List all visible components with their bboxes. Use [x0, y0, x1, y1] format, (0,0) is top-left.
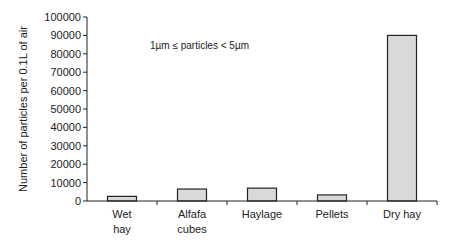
y-tick-label: 20000 [50, 158, 81, 170]
y-tick-label: 30000 [50, 140, 81, 152]
y-tick-label: 60000 [50, 85, 81, 97]
x-category-label: cubes [177, 223, 207, 235]
y-tick-label: 0 [75, 195, 81, 207]
y-tick-label: 100000 [44, 11, 81, 23]
y-tick-label: 10000 [50, 177, 81, 189]
bar-wet-hay [108, 196, 137, 201]
x-category-label: Haylage [242, 208, 282, 220]
x-category-label: Wet [112, 208, 131, 220]
x-category-label: Alfafa [178, 208, 207, 220]
y-tick-label: 40000 [50, 121, 81, 133]
y-axis-ticks: 0100002000030000400005000060000700008000… [44, 11, 87, 207]
y-tick-label: 70000 [50, 66, 81, 78]
x-axis-labels: WethayAlfafacubesHaylagePelletsDry hay [112, 201, 437, 235]
x-category-label: hay [113, 223, 131, 235]
chart-annotation: 1µm ≤ particles < 5µm [150, 40, 249, 51]
bar-chart: 0100002000030000400005000060000700008000… [0, 0, 451, 252]
x-category-label: Pellets [315, 208, 349, 220]
y-tick-label: 90000 [50, 29, 81, 41]
bar-haylage [248, 188, 277, 201]
bar-dry-hay [388, 35, 417, 201]
y-axis-title: Number of particles per 0.1L of air [17, 26, 29, 192]
bar-alfafa-cubes [178, 189, 207, 201]
bars [108, 35, 417, 201]
bar-pellets [318, 195, 347, 201]
x-category-label: Dry hay [383, 208, 421, 220]
y-tick-label: 80000 [50, 48, 81, 60]
y-tick-label: 50000 [50, 103, 81, 115]
